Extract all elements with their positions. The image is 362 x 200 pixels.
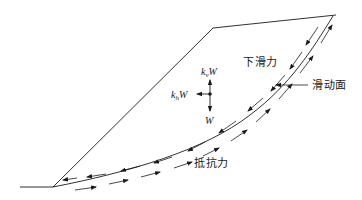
force-system	[197, 80, 210, 111]
resisting-force-label: 抵抗力	[194, 158, 229, 169]
horizontal-seismic-force-label: khW	[171, 90, 187, 102]
sliding-force-label: 下滑力	[243, 57, 278, 68]
slip-surface-curve	[53, 16, 333, 187]
center-of-mass-dot	[208, 92, 212, 96]
weight-label: W	[205, 116, 213, 126]
slip-surface-label: 滑动面	[312, 80, 347, 91]
vertical-seismic-force-label: kvW	[201, 67, 217, 79]
